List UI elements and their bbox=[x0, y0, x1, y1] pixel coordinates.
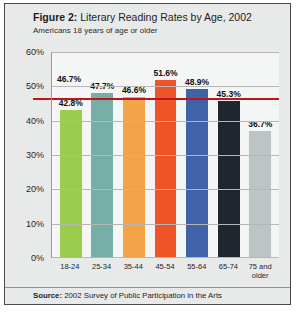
average-reference-line-extension bbox=[33, 98, 51, 100]
chart-plot-area: 42.8%47.7%46.6%51.6%48.9%45.3%36.7% bbox=[51, 52, 279, 258]
y-axis-labels: 60%50%40%30%20%10%0% bbox=[5, 52, 49, 258]
gridline bbox=[52, 224, 279, 225]
bar-55-64[interactable] bbox=[186, 89, 208, 257]
bar-25-34[interactable] bbox=[91, 93, 113, 257]
x-axis-tick: 65-74 bbox=[213, 260, 245, 286]
footer-divider bbox=[5, 287, 290, 288]
gridline bbox=[52, 52, 279, 53]
x-axis-labels: 18-2425-3435-4445-5455-6465-7475 and old… bbox=[51, 260, 279, 286]
y-axis-tick: 0% bbox=[31, 253, 44, 263]
figure-container: Figure 2: Literary Reading Rates by Age,… bbox=[4, 3, 291, 305]
average-reference-label: 46.7% bbox=[57, 74, 81, 84]
source-text: 2002 Survey of Public Participation in t… bbox=[62, 291, 222, 300]
y-axis-tick: 10% bbox=[26, 219, 44, 229]
bar-value-label: 51.6% bbox=[153, 68, 177, 78]
gridline bbox=[52, 86, 279, 87]
x-axis-tick: 35-44 bbox=[117, 260, 149, 286]
bar-45-54[interactable] bbox=[155, 80, 177, 257]
figure-title-text: Literary Reading Rates by Age, 2002 bbox=[77, 11, 252, 23]
bar-65-74[interactable] bbox=[218, 101, 240, 257]
x-axis-tick: 75 and older bbox=[244, 260, 276, 286]
x-axis-tick: 55-64 bbox=[181, 260, 213, 286]
x-axis-tick: 18-24 bbox=[54, 260, 86, 286]
figure-header: Figure 2: Literary Reading Rates by Age,… bbox=[5, 4, 290, 41]
gridline bbox=[52, 257, 279, 258]
x-axis-tick: 25-34 bbox=[86, 260, 118, 286]
y-axis-tick: 30% bbox=[26, 150, 44, 160]
y-axis-tick: 20% bbox=[26, 184, 44, 194]
average-reference-line bbox=[52, 98, 279, 100]
bar-18-24[interactable] bbox=[60, 110, 82, 257]
source-note: Source: 2002 Survey of Public Participat… bbox=[33, 291, 222, 300]
x-axis-tick: 45-54 bbox=[149, 260, 181, 286]
gridline bbox=[52, 155, 279, 156]
source-label: Source: bbox=[33, 291, 62, 300]
y-axis-tick: 50% bbox=[26, 81, 44, 91]
figure-subtitle: Americans 18 years of age or older bbox=[33, 25, 290, 36]
gridline bbox=[52, 121, 279, 122]
y-axis-tick: 40% bbox=[26, 116, 44, 126]
gridline bbox=[52, 189, 279, 190]
bar-75-and-older[interactable] bbox=[249, 131, 271, 257]
page-title: Figure 2: Literary Reading Rates by Age,… bbox=[33, 11, 290, 24]
figure-number: Figure 2: bbox=[33, 11, 77, 23]
y-axis-tick: 60% bbox=[26, 47, 44, 57]
